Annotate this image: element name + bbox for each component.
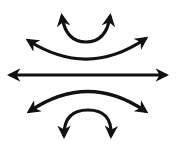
bottom-wide-arc-arrow-icon: [30, 92, 145, 112]
top-small-arc-arrow-icon: [62, 17, 110, 42]
arrow-diagram-svg: [0, 0, 177, 149]
arrow-diagram: [0, 0, 177, 149]
bottom-small-arc-arrow-icon: [64, 110, 111, 135]
